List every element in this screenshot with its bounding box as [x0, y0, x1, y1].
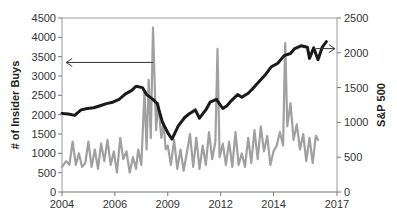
- left-tick-label: 3500: [32, 51, 56, 63]
- left-tick-label: 1500: [32, 128, 56, 140]
- left-tick-label: 2000: [32, 109, 56, 121]
- insider-buys-vs-sp500-chart: 050010001500200025003000350040004500 050…: [0, 0, 397, 221]
- left-tick-label: 4500: [32, 12, 56, 24]
- left-tick-label: 2500: [32, 89, 56, 101]
- left-axis-arrow: [66, 58, 153, 66]
- x-tick-label: 2006: [103, 198, 127, 210]
- x-tick-label: 2017: [325, 198, 349, 210]
- right-tick-label: 2500: [344, 12, 368, 24]
- x-axis: 200420062009201220142017: [50, 192, 349, 210]
- left-tick-label: 0: [50, 186, 56, 198]
- left-tick-label: 1000: [32, 147, 56, 159]
- left-tick-label: 4000: [32, 31, 56, 43]
- x-tick-label: 2014: [261, 198, 285, 210]
- left-axis-title: # of Insider Buys: [9, 61, 21, 150]
- series-layer: [62, 28, 326, 173]
- insider-buys-line: [62, 28, 318, 173]
- right-tick-label: 0: [344, 186, 350, 198]
- left-tick-label: 3000: [32, 70, 56, 82]
- x-tick-label: 2004: [50, 198, 74, 210]
- right-tick-label: 1500: [344, 82, 368, 94]
- right-axis-arrow: [316, 45, 335, 53]
- right-y-axis: 05001000150020002500: [337, 12, 368, 198]
- right-tick-label: 1000: [344, 116, 368, 128]
- right-tick-label: 2000: [344, 47, 368, 59]
- right-axis-title: S&P 500: [375, 83, 387, 127]
- left-tick-label: 500: [38, 167, 56, 179]
- x-tick-label: 2012: [208, 198, 232, 210]
- left-y-axis: 050010001500200025003000350040004500: [32, 12, 62, 198]
- right-tick-label: 500: [344, 151, 362, 163]
- x-tick-label: 2009: [156, 198, 180, 210]
